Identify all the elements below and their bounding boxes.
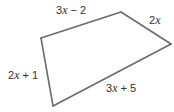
label-side-top: 3x − 2 — [56, 4, 86, 16]
label-side-bottom: 3x + 5 — [106, 82, 136, 94]
side-left — [41, 38, 53, 106]
label-side-left: 2x + 1 — [8, 69, 38, 81]
label-bottom-rest: + 5 — [117, 82, 136, 94]
quadrilateral-diagram — [0, 0, 174, 112]
side-upper-right — [121, 12, 171, 44]
side-bottom — [53, 44, 171, 106]
label-side-upper-right: 2x — [149, 14, 160, 26]
label-left-rest: + 1 — [19, 69, 38, 81]
label-top-rest: − 2 — [67, 4, 86, 16]
label-upper-right-variable: x — [155, 13, 160, 27]
